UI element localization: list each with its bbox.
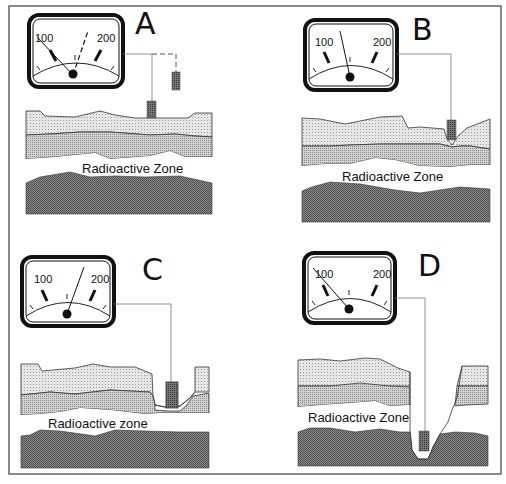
gauge-b-label-200: 200 — [373, 36, 391, 48]
gauge-a: 100 200 — [29, 15, 123, 87]
figure-root: 100 200 A Radioactive Zone 100 — [0, 0, 506, 484]
panel-b: 100 200 B Radioactive Zone — [302, 12, 490, 222]
panel-c: 100 200 C Radioactive zone — [21, 252, 209, 468]
gauge-d-label-200: 200 — [373, 268, 391, 280]
zone-label-b: Radioactive Zone — [342, 169, 443, 184]
panel-letter-b: B — [412, 12, 433, 47]
cable-b — [397, 54, 451, 120]
panel-a: 100 200 A Radioactive Zone — [26, 6, 212, 214]
gauge-c: 100 200 — [22, 257, 114, 326]
panel-letter-c: C — [142, 252, 163, 287]
gauge-b-label-100: 100 — [315, 36, 333, 48]
gauge-a-label-200: 200 — [97, 32, 115, 44]
zone-label-d: Radioactive Zone — [308, 410, 409, 425]
gauge-c-label-100: 100 — [34, 273, 52, 285]
probe-d — [419, 431, 429, 451]
panel-letter-a: A — [135, 6, 156, 41]
cable-a — [123, 54, 152, 101]
panel-letter-d: D — [418, 248, 441, 283]
cable-a-dashed — [152, 54, 176, 72]
panel-d: 100 200 D Radioactive Zone — [298, 248, 488, 466]
probe-c — [166, 382, 178, 408]
zone-label-c: Radioactive zone — [48, 416, 148, 431]
gauge-b: 100 200 — [305, 20, 397, 90]
gauge-d: 100 200 — [304, 253, 395, 323]
diagram-canvas: 100 200 A Radioactive Zone 100 — [0, 0, 506, 484]
zone-label-a: Radioactive Zone — [82, 161, 183, 176]
probe-a — [147, 101, 156, 118]
probe-a-raised — [172, 72, 180, 90]
probe-b — [447, 120, 456, 140]
gauge-c-label-200: 200 — [91, 273, 109, 285]
